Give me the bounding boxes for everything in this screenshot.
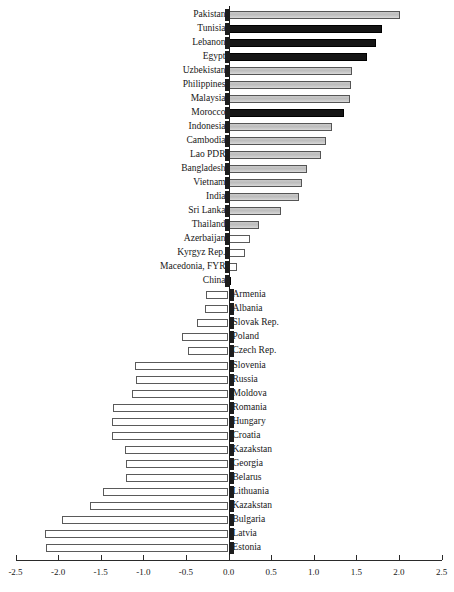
bar [135, 362, 229, 370]
category-label: Georgia [233, 456, 454, 471]
category-label: Poland [233, 329, 454, 344]
category-tick [230, 303, 234, 315]
bar [229, 137, 326, 145]
category-tick [225, 163, 229, 175]
category-tick [230, 402, 234, 414]
category-label: Armenia [233, 287, 454, 302]
category-label: Uzbekistan [0, 63, 226, 78]
bar [229, 193, 300, 201]
category-label: Thailand [0, 217, 226, 232]
category-label: Philippines [0, 77, 226, 92]
category-tick [225, 233, 229, 245]
bar [62, 516, 228, 524]
category-tick [225, 9, 229, 21]
category-tick [230, 486, 234, 498]
category-tick [230, 500, 234, 512]
category-label: Azerbaijan [0, 231, 226, 246]
category-label: Sri Lanka [0, 203, 226, 218]
bar [229, 39, 376, 47]
category-label: Estonia [233, 540, 454, 555]
bar [229, 249, 245, 257]
x-axis-tick [271, 555, 272, 560]
category-tick [225, 177, 229, 189]
bar [45, 530, 228, 538]
x-axis-tick-label: 0.0 [209, 567, 249, 577]
bar [113, 404, 228, 412]
x-axis-tick [314, 555, 315, 560]
bar [229, 109, 344, 117]
category-tick [230, 289, 234, 301]
category-tick [230, 528, 234, 540]
category-label: Lebanon [0, 35, 226, 50]
category-label: Kazakstan [233, 498, 454, 513]
x-axis-tick [143, 555, 144, 560]
x-axis-tick [399, 555, 400, 560]
bar [46, 544, 228, 552]
bar-row: Estonia [0, 541, 454, 556]
category-tick [230, 317, 234, 329]
category-tick [225, 37, 229, 49]
x-axis-tick-label: -1.5 [81, 567, 121, 577]
x-axis-tick-label: -2.0 [38, 567, 78, 577]
x-axis-tick [58, 555, 59, 560]
category-tick [230, 345, 234, 357]
x-axis-line [16, 560, 442, 561]
bar [229, 207, 282, 215]
x-axis-tick-label: -1.0 [123, 567, 163, 577]
category-tick [230, 514, 234, 526]
bar [229, 263, 238, 271]
bar [126, 460, 228, 468]
category-label: Bulgaria [233, 512, 454, 527]
category-tick [225, 107, 229, 119]
category-label: Morocco [0, 105, 226, 120]
bar [229, 81, 352, 89]
x-axis-tick-label: 2.0 [379, 567, 419, 577]
category-tick [225, 51, 229, 63]
x-axis-tick [16, 555, 17, 560]
category-label: Moldova [233, 386, 454, 401]
category-tick [225, 219, 229, 231]
category-label: Lao PDR [0, 147, 226, 162]
category-tick [225, 275, 229, 287]
category-label: Vietnam [0, 175, 226, 190]
category-tick [225, 65, 229, 77]
x-axis-tick [186, 555, 187, 560]
category-tick [230, 444, 234, 456]
horizontal-bar-chart: PakistanTunisiaLebanonEgyptUzbekistanPhi… [0, 0, 454, 592]
category-label: Macedonia, FYR [0, 259, 226, 274]
bar [103, 488, 228, 496]
bar [229, 235, 250, 243]
category-tick [225, 79, 229, 91]
bar [205, 305, 228, 313]
category-tick [225, 93, 229, 105]
plot-area: PakistanTunisiaLebanonEgyptUzbekistanPhi… [0, 0, 454, 556]
bar [206, 291, 228, 299]
category-tick [230, 374, 234, 386]
bar [229, 221, 260, 229]
category-label: Croatia [233, 428, 454, 443]
category-label: Czech Rep. [233, 343, 454, 358]
bar [229, 179, 302, 187]
category-label: Lithuania [233, 484, 454, 499]
x-axis-tick-label: 0.5 [251, 567, 291, 577]
bar [229, 11, 400, 19]
category-label: Belarus [233, 470, 454, 485]
category-tick [230, 360, 234, 372]
category-tick [225, 23, 229, 35]
category-tick [225, 121, 229, 133]
bar [112, 432, 229, 440]
category-label: Bangladesh [0, 161, 226, 176]
category-label: Slovenia [233, 358, 454, 373]
category-tick [225, 205, 229, 217]
x-axis-tick [356, 555, 357, 560]
x-axis-tick-label: 1.0 [294, 567, 334, 577]
x-axis-tick [101, 555, 102, 560]
category-label: Egypt [0, 49, 226, 64]
bar [126, 474, 228, 482]
x-axis-tick-label: -2.5 [0, 567, 36, 577]
bar [229, 53, 367, 61]
category-label: Tunisia [0, 21, 226, 36]
category-label: Malaysia [0, 91, 226, 106]
category-label: Kyrgyz Rep. [0, 245, 226, 260]
bar [125, 446, 229, 454]
